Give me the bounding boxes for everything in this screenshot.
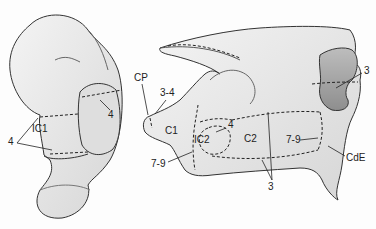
label-cp: CP [134,73,148,83]
label-7-9-left: 7-9 [151,159,165,169]
label-c2: C2 [244,134,257,144]
label-3-bottom: 3 [268,182,274,192]
left-vertebra [10,15,122,218]
right-vertebra [143,26,360,200]
label-4-top: 4 [108,110,114,120]
label-3-top-right: 3 [364,66,370,76]
anatomy-diagram: IC1 4 4 CP 3-4 C1 IC2 4 C2 7-9 7-9 3 3 C… [0,0,376,229]
label-cde: CdE [346,153,365,163]
vertebra-illustration [0,0,376,229]
label-7-9-right: 7-9 [286,135,300,145]
label-ic2: IC2 [194,135,210,145]
label-ic1: IC1 [32,124,48,134]
label-4-mid: 4 [228,120,234,130]
label-4-left: 4 [8,137,14,147]
label-3-4: 3-4 [160,88,174,98]
label-c1: C1 [165,126,178,136]
